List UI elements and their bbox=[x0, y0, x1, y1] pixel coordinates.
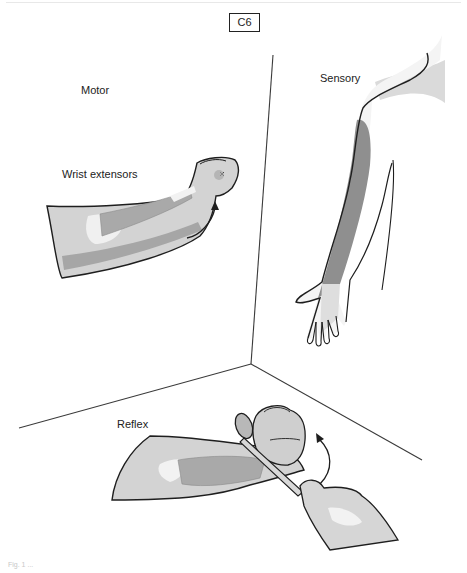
reflex-hammer-head bbox=[232, 411, 256, 441]
motor-muscle-label: Wrist extensors bbox=[62, 168, 138, 180]
reflex-arrow-icon bbox=[316, 433, 330, 484]
sensory-panel-title: Sensory bbox=[320, 72, 360, 84]
reflex-examiner-hand bbox=[300, 480, 398, 550]
motor-panel-title: Motor bbox=[81, 84, 109, 96]
motor-knuckle-shadow bbox=[214, 170, 224, 180]
nerve-root-label-box: C6 bbox=[229, 13, 260, 32]
figure-caption: Fig. 1 ... bbox=[8, 561, 33, 568]
wall-edge-vertical bbox=[251, 55, 273, 364]
reflex-panel-title: Reflex bbox=[117, 418, 148, 430]
sensory-arm-illustration bbox=[296, 35, 445, 346]
illustration bbox=[0, 0, 467, 573]
